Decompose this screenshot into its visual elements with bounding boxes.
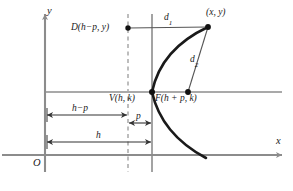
figure-canvas xyxy=(0,0,293,191)
directrix-point-dot xyxy=(125,25,130,30)
directrix-point-label: D(h−p, y) xyxy=(71,23,109,33)
measure-h-minus-p-label: h−p xyxy=(72,104,88,114)
d1-label: d1 xyxy=(164,13,172,25)
measure-h-label: h xyxy=(96,131,101,141)
x-axis-label: x xyxy=(276,136,281,147)
vertex-label: V(h, k) xyxy=(109,94,135,104)
measure-p-label: p xyxy=(136,112,141,122)
d2-subscript: 2 xyxy=(195,61,199,69)
d1-segment xyxy=(128,27,208,28)
d1-subscript: 1 xyxy=(169,19,173,27)
origin-label: O xyxy=(33,158,41,169)
d2-label: d2 xyxy=(190,55,198,67)
y-axis-label: y xyxy=(47,6,52,17)
curve-point-dot xyxy=(205,24,211,30)
curve-point-label: (x, y) xyxy=(206,8,226,18)
parabola-figure: y x O D(h−p, y) (x, y) V(h, k) F(h + p, … xyxy=(0,0,293,191)
focus-label: F(h + p, k) xyxy=(155,94,197,104)
